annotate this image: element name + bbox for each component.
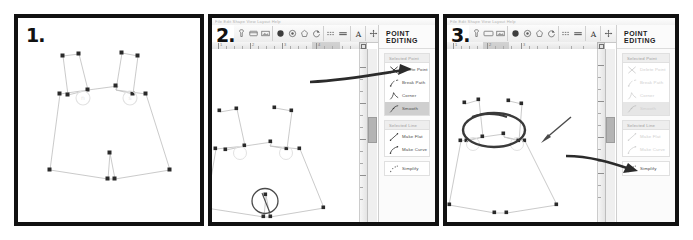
solid-line-icon[interactable] bbox=[337, 27, 349, 40]
simplify-icon bbox=[626, 163, 637, 174]
simplify-icon bbox=[388, 163, 399, 174]
pentagon-outline-icon[interactable] bbox=[533, 27, 545, 40]
pentagon-outline-icon[interactable] bbox=[298, 27, 310, 40]
gear-shape-icon[interactable] bbox=[521, 27, 533, 40]
menu-label: Delete Point bbox=[402, 67, 428, 72]
vertical-ruler-2[interactable] bbox=[359, 49, 368, 222]
simplify-group-2: Simplify bbox=[384, 161, 430, 176]
image-frame-icon[interactable] bbox=[259, 27, 271, 40]
selected-point-group-3: Delete Point Break Path Corner Smooth bbox=[622, 62, 670, 116]
menu-item-delete-point-3: Delete Point bbox=[623, 63, 669, 76]
menu-label: Smooth bbox=[402, 106, 418, 111]
garment-path-illustration-3 bbox=[447, 49, 597, 222]
menu-item-break-path-3: Break Path bbox=[623, 76, 669, 89]
panel-step-1: 1. bbox=[14, 14, 204, 226]
menu-item-make-curve-3: Make Curve bbox=[623, 143, 669, 156]
x-cross-icon bbox=[388, 64, 399, 75]
dashed-line-icon[interactable] bbox=[325, 27, 337, 40]
rectangle-select-icon[interactable] bbox=[482, 27, 494, 40]
menu-label: Delete Point bbox=[640, 67, 666, 72]
menu-label: Make Flat bbox=[402, 134, 423, 139]
gear-shape-icon[interactable] bbox=[286, 27, 298, 40]
figure-sheet: 1. bbox=[0, 0, 693, 240]
ruler-number: 2 bbox=[489, 42, 491, 47]
menu-item-corner-3: Corner bbox=[623, 89, 669, 102]
filled-polygon-icon[interactable] bbox=[509, 27, 521, 40]
menu-item-corner-2[interactable]: Corner bbox=[385, 89, 429, 102]
vertical-scrollbar-2[interactable] bbox=[368, 49, 377, 222]
rotate-shape-icon[interactable] bbox=[545, 27, 557, 40]
section-label-selected-point-2: Selected Point bbox=[384, 53, 430, 62]
make-flat-icon bbox=[626, 131, 637, 142]
text-tool-icon[interactable]: A bbox=[352, 27, 364, 40]
menu-item-simplify-3[interactable]: Simplify bbox=[623, 162, 669, 175]
menu-label: Smooth bbox=[640, 106, 656, 111]
image-frame-icon[interactable] bbox=[494, 27, 506, 40]
text-tool-icon[interactable]: A bbox=[587, 27, 599, 40]
pointer-select-icon[interactable] bbox=[235, 27, 247, 40]
smooth-icon bbox=[388, 103, 399, 114]
menu-item-simplify-2[interactable]: Simplify bbox=[385, 162, 429, 175]
svg-text:n: n bbox=[81, 94, 85, 101]
design-canvas-3[interactable] bbox=[447, 49, 597, 222]
menu-label: Break Path bbox=[640, 80, 663, 85]
menu-item-smooth-3: Smooth bbox=[623, 102, 669, 115]
vertical-ruler-3[interactable] bbox=[597, 49, 606, 222]
corner-icon bbox=[626, 90, 637, 101]
menu-item-smooth-2[interactable]: Smooth bbox=[385, 102, 429, 115]
solid-line-icon[interactable] bbox=[572, 27, 584, 40]
svg-text:A: A bbox=[354, 30, 361, 39]
section-label-selected-line-3: Selected Line bbox=[622, 120, 670, 129]
step-number-1: 1. bbox=[26, 24, 44, 46]
design-canvas-2[interactable] bbox=[212, 49, 359, 222]
scrollbar-thumb[interactable] bbox=[606, 117, 615, 143]
pointer-select-icon[interactable] bbox=[470, 27, 482, 40]
make-curve-icon bbox=[388, 144, 399, 155]
rotate-shape-icon[interactable] bbox=[310, 27, 322, 40]
corner-icon bbox=[388, 90, 399, 101]
ruler-number: 2 bbox=[252, 42, 254, 47]
svg-text:s: s bbox=[128, 94, 131, 101]
step-number-3: 3. bbox=[451, 24, 469, 46]
toolbar-group-line bbox=[559, 26, 586, 41]
selected-point-group-2: Delete Point Break Path Corner Smooth bbox=[384, 62, 430, 116]
ruler-origin-toggle-2[interactable] bbox=[359, 42, 367, 49]
menubar-labels-2: File Edit Shape View Layout Help bbox=[212, 18, 435, 25]
dashed-line-icon[interactable] bbox=[560, 27, 572, 40]
toolbar-group-text: A bbox=[586, 26, 601, 41]
break-path-icon bbox=[388, 77, 399, 88]
menu-label: Corner bbox=[402, 93, 416, 98]
vertical-scrollbar-3[interactable] bbox=[606, 49, 615, 222]
menu-item-make-curve-2[interactable]: Make Curve bbox=[385, 143, 429, 156]
move-icon[interactable] bbox=[602, 27, 614, 40]
panel-step-2: File Edit Shape View Layout Help 2. bbox=[208, 14, 439, 226]
garment-path-illustration-2 bbox=[212, 49, 359, 222]
menu-label: Make Curve bbox=[640, 147, 665, 152]
toolbar-group-select bbox=[469, 26, 508, 41]
point-editing-panel-2: POINT EDITING Selected Point Delete Poin… bbox=[378, 25, 435, 222]
section-label-selected-point-3: Selected Point bbox=[622, 53, 670, 62]
break-path-icon bbox=[626, 77, 637, 88]
menu-label: Make Flat bbox=[640, 134, 661, 139]
menu-item-break-path-2[interactable]: Break Path bbox=[385, 76, 429, 89]
rectangle-select-icon[interactable] bbox=[247, 27, 259, 40]
app-menubar-3[interactable]: File Edit Shape View Layout Help bbox=[447, 18, 675, 25]
toolbar-group-select bbox=[234, 26, 273, 41]
filled-polygon-icon[interactable] bbox=[274, 27, 286, 40]
toolbar-group-shape bbox=[273, 26, 324, 41]
toolbar-group-line bbox=[324, 26, 351, 41]
app-menubar-2[interactable]: File Edit Shape View Layout Help bbox=[212, 18, 435, 25]
menu-item-make-flat-2[interactable]: Make Flat bbox=[385, 130, 429, 143]
scrollbar-thumb[interactable] bbox=[368, 117, 377, 143]
annotation-ellipse-highlight-3 bbox=[463, 113, 525, 147]
menu-label: Break Path bbox=[402, 80, 425, 85]
menu-label: Corner bbox=[640, 93, 654, 98]
menubar-labels-3: File Edit Shape View Layout Help bbox=[447, 18, 675, 25]
simplify-group-3: Simplify bbox=[622, 161, 670, 176]
selected-line-group-3: Make Flat Make Curve bbox=[622, 129, 670, 157]
menu-label: Simplify bbox=[640, 166, 657, 171]
menu-item-make-flat-3: Make Flat bbox=[623, 130, 669, 143]
ruler-origin-toggle-3[interactable] bbox=[597, 42, 605, 49]
ruler-number: 4 bbox=[318, 42, 320, 47]
menu-item-delete-point-2[interactable]: Delete Point bbox=[385, 63, 429, 76]
